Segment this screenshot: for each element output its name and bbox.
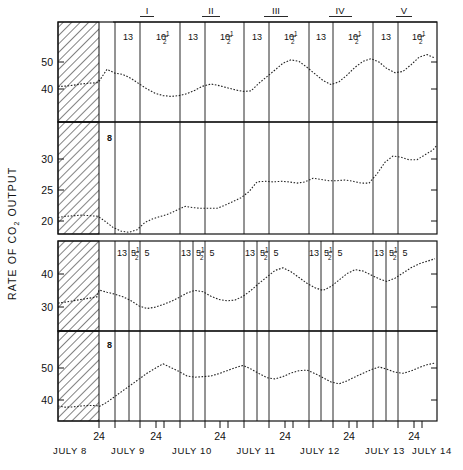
y-axis-title-tail: OUTPUT	[6, 167, 18, 221]
hour-tick-label: 24	[343, 430, 355, 442]
cycle-label-5: 5	[402, 248, 407, 258]
y-axis-title-main: RATE OF CO	[6, 226, 18, 300]
ytick-label: 50	[41, 362, 53, 374]
hatched-region	[58, 241, 99, 331]
cycle-label-5: 5	[337, 248, 342, 258]
ytick-label: 20	[41, 215, 53, 227]
cycle-label-5: 5	[209, 248, 214, 258]
day-label: JULY 13	[365, 445, 405, 456]
hatch-duration-label: 8	[107, 340, 112, 350]
day-label: JULY 11	[236, 445, 275, 456]
ytick-label: 30	[41, 153, 53, 165]
cycle-label-13: 13	[117, 248, 127, 258]
ytick-label: 50	[41, 56, 53, 68]
cycle-label-13: 13	[381, 32, 391, 42]
ytick-label: 40	[41, 394, 53, 406]
cycle-label-13: 13	[374, 248, 384, 258]
roman-numeral-label: IV	[336, 5, 346, 16]
roman-numeral-label: III	[272, 5, 280, 16]
cycle-label-13: 13	[245, 248, 255, 258]
co2-output-chart: RATE OF CO2 OUTPUT I II III IV V	[0, 0, 463, 470]
cycle-label-13: 13	[123, 32, 133, 42]
cycle-label-5: 5	[144, 248, 149, 258]
hatched-region	[58, 122, 99, 234]
hour-tick-label: 24	[408, 430, 420, 442]
roman-numeral-label: V	[401, 5, 408, 16]
hour-tick-label: 24	[93, 430, 105, 442]
cycle-label-13: 13	[309, 248, 319, 258]
x-axis-day-labels: JULY 8 JULY 9 JULY 10 JULY 11 JULY 12 JU…	[53, 445, 452, 456]
day-label: JULY 14	[412, 445, 452, 456]
figure-container: RATE OF CO2 OUTPUT I II III IV V	[0, 0, 463, 470]
hour-tick-label: 24	[279, 430, 291, 442]
svg-text:RATE OF CO2 OUTPUT: RATE OF CO2 OUTPUT	[6, 167, 20, 300]
roman-numeral-label: I	[146, 5, 149, 16]
hour-tick-label: 24	[150, 430, 162, 442]
ytick-label: 40	[41, 268, 53, 280]
cycle-label-13: 13	[181, 248, 191, 258]
hatched-region	[58, 22, 99, 122]
day-label: JULY 8	[53, 445, 87, 456]
cycle-label-13: 13	[252, 32, 262, 42]
cycle-label-13: 13	[316, 32, 326, 42]
ytick-label: 25	[41, 184, 53, 196]
day-label: JULY 10	[172, 445, 212, 456]
cycle-label-13: 13	[188, 32, 198, 42]
y-axis-title: RATE OF CO2 OUTPUT	[6, 167, 20, 300]
hatch-duration-label: 8	[107, 133, 112, 143]
day-label: JULY 9	[111, 445, 145, 456]
hour-tick-label: 24	[214, 430, 226, 442]
ytick-label: 40	[41, 83, 53, 95]
cycle-label-5: 5	[273, 248, 278, 258]
day-label: JULY 12	[300, 445, 340, 456]
roman-numeral-label: II	[208, 5, 213, 16]
hatched-region	[58, 331, 99, 421]
ytick-label: 30	[41, 301, 53, 313]
